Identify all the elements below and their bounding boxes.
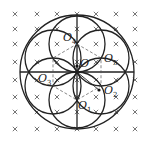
label-O2: O2 xyxy=(104,85,118,99)
label-O4: O4 xyxy=(63,32,77,46)
label-O: O xyxy=(80,58,89,69)
label-O5: O5 xyxy=(104,53,118,67)
label-O3: O3 xyxy=(38,73,52,87)
center-point-O xyxy=(75,64,78,67)
point-O2 xyxy=(97,88,100,91)
label-O1: O1 xyxy=(78,100,92,114)
diagram-figure xyxy=(0,0,149,143)
